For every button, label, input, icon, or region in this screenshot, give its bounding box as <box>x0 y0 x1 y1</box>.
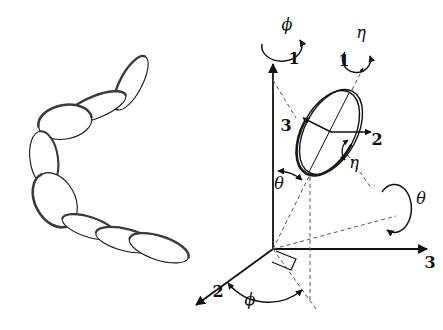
lab-axis-1-label: 1 <box>288 49 299 68</box>
canvas-background <box>0 0 443 330</box>
figure-root: 1 2 3 1 2 3 ϕ η θ η θ ϕ <box>0 0 443 330</box>
phi-angle-label: ϕ <box>245 290 256 309</box>
lab-axis-2-label: 2 <box>212 282 223 301</box>
body-axis-2-label: 2 <box>371 130 382 149</box>
body-axis-1-label: 1 <box>338 51 349 70</box>
body-axis-3-label: 3 <box>280 116 291 135</box>
eta-spin-label: η <box>356 23 366 42</box>
figure-svg: 1 2 3 1 2 3 ϕ η θ η θ ϕ <box>0 0 443 330</box>
phi-spin-label: ϕ <box>282 15 293 34</box>
eta-angle-label: η <box>349 153 359 172</box>
theta-spin-label: θ <box>416 189 426 208</box>
theta-tilt-label: θ <box>274 174 284 193</box>
lab-axis-3-label: 3 <box>424 253 435 272</box>
